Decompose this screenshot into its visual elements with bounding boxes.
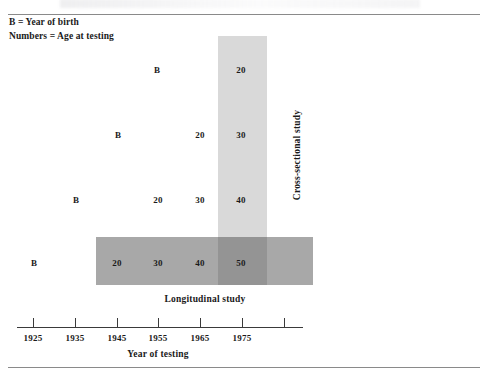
x-axis-tick-label-1945: 1945 xyxy=(108,333,127,343)
longitudinal-study-label: Longitudinal study xyxy=(165,294,246,304)
x-axis-tick-label-1925: 1925 xyxy=(24,333,43,343)
cell-r2-30: 30 xyxy=(236,130,245,140)
legend-line-age: Numbers = Age at testing xyxy=(9,30,114,44)
x-axis-tick-label-1935: 1935 xyxy=(66,333,85,343)
cropped-text-artifact xyxy=(60,0,420,8)
bottom-rule xyxy=(8,367,480,368)
cross-sectional-study-label: Cross-sectional study xyxy=(292,110,302,200)
cell-r1-b: B xyxy=(154,65,160,75)
cell-r4-20: 20 xyxy=(112,258,121,268)
x-axis-tick-3 xyxy=(158,318,159,327)
cell-r2-b: B xyxy=(115,130,121,140)
cell-r2-20: 20 xyxy=(195,130,204,140)
cell-r3-40: 40 xyxy=(236,195,245,205)
x-axis-tick-4 xyxy=(200,318,201,327)
figure-canvas: B = Year of birth Numbers = Age at testi… xyxy=(0,0,488,378)
x-axis-tick-0 xyxy=(33,318,34,327)
x-axis-tick-2 xyxy=(117,318,118,327)
x-axis-tick-label-1955: 1955 xyxy=(149,333,168,343)
cell-r4-b: B xyxy=(31,258,37,268)
cell-r4-40: 40 xyxy=(195,258,204,268)
cell-r1-20: 20 xyxy=(236,65,245,75)
cell-r3-b: B xyxy=(73,195,79,205)
legend-line-birth: B = Year of birth xyxy=(9,16,114,30)
cell-r4-50: 50 xyxy=(236,258,245,268)
x-axis-title: Year of testing xyxy=(127,349,188,359)
x-axis-tick-1 xyxy=(75,318,76,327)
x-axis-tick-label-1965: 1965 xyxy=(191,333,210,343)
x-axis-tick-label-1975: 1975 xyxy=(233,333,252,343)
cell-r4-30: 30 xyxy=(153,258,162,268)
x-axis-line xyxy=(17,327,303,328)
x-axis-tick-6 xyxy=(284,318,285,327)
cell-r3-30: 30 xyxy=(195,195,204,205)
legend: B = Year of birth Numbers = Age at testi… xyxy=(9,16,114,43)
x-axis-tick-5 xyxy=(242,318,243,327)
cell-r3-20: 20 xyxy=(153,195,162,205)
top-rule xyxy=(8,14,480,15)
